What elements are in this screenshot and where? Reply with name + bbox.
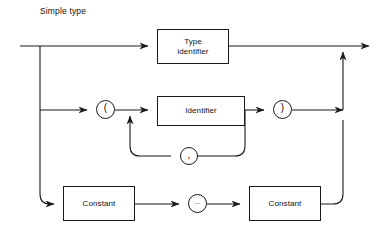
node-right-parenthesis[interactable]: ) — [273, 100, 292, 119]
node-type-identifier-line1: Type — [184, 37, 202, 46]
syntax-diagram: Simple type — [0, 0, 382, 240]
node-type-identifier[interactable]: Type identifier — [157, 29, 229, 64]
node-range-dots[interactable]: .. — [188, 194, 207, 213]
node-left-parenthesis[interactable]: ( — [96, 100, 115, 119]
node-type-identifier-label: Type identifier — [177, 37, 208, 57]
node-identifier[interactable]: Identifier — [157, 96, 245, 126]
node-comma[interactable]: , — [180, 147, 198, 165]
node-type-identifier-line2: identifier — [177, 47, 208, 56]
node-constant-lower[interactable]: Constant — [63, 186, 135, 221]
rail-constant-upper-to-merge — [321, 120, 343, 204]
rail-left-spine-lower — [40, 110, 54, 204]
node-constant-upper[interactable]: Constant — [249, 186, 321, 221]
